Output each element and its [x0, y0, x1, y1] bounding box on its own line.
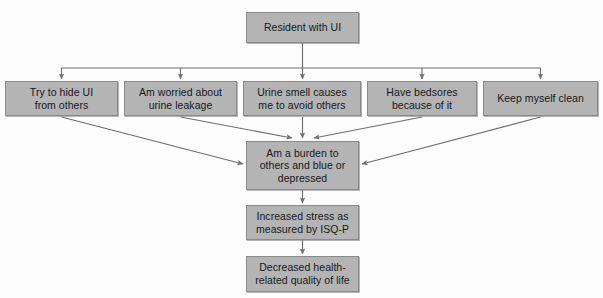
edge-clean-to-burden [362, 117, 541, 164]
node-keep-myself-clean[interactable]: Keep myself clean [483, 81, 598, 116]
node-am-worried-about-urine-leakage[interactable]: Am worried about urine leakage [124, 81, 237, 116]
node-try-to-hide-ui[interactable]: Try to hide UI from others [5, 81, 118, 116]
edge-hide-to-burden [62, 117, 244, 164]
node-resident-with-ui[interactable]: Resident with UI [246, 12, 359, 43]
node-decreased-quality-of-life[interactable]: Decreased health- related quality of lif… [246, 256, 359, 292]
node-have-bedsores[interactable]: Have bedsores because of it [367, 81, 477, 116]
node-am-a-burden-to-others[interactable]: Am a burden to others and blue or depres… [246, 141, 359, 190]
edge-bedsores-to-burden [314, 117, 422, 138]
node-urine-smell-avoid-others[interactable]: Urine smell causes me to avoid others [243, 81, 361, 116]
flowchart-canvas: Resident with UI Try to hide UI from oth… [0, 0, 603, 298]
node-increased-stress-isq-p[interactable]: Increased stress as measured by ISQ-P [246, 205, 359, 240]
edge-worried-to-burden [181, 117, 293, 138]
